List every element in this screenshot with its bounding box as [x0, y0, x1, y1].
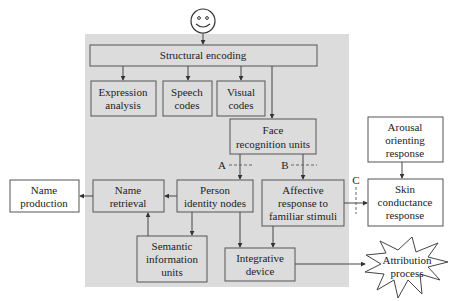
svg-text:Expression: Expression [99, 86, 148, 98]
svg-text:Visual: Visual [227, 86, 255, 98]
svg-text:Semantic: Semantic [152, 240, 193, 252]
node-person-identity-nodes: Person identity nodes [177, 180, 253, 212]
svg-text:familiar stimuli: familiar stimuli [269, 210, 337, 222]
svg-text:conductance: conductance [378, 196, 433, 208]
node-name-retrieval: Name retrieval [93, 180, 164, 212]
svg-text:Structural encoding: Structural encoding [160, 49, 247, 61]
pathway-label-a: A [218, 159, 226, 171]
svg-text:identity nodes: identity nodes [184, 197, 246, 209]
svg-text:Speech: Speech [171, 86, 203, 98]
svg-text:information: information [146, 253, 198, 265]
node-attribution-process: Attribution process [365, 237, 448, 298]
node-integrative-device: Integrative device [225, 248, 295, 281]
node-arousal-orienting-response: Arousal orienting response [368, 117, 443, 162]
node-structural-encoding: Structural encoding [90, 45, 317, 66]
svg-text:Skin: Skin [395, 183, 416, 195]
svg-text:production: production [20, 197, 68, 209]
svg-text:Person: Person [200, 184, 230, 196]
node-expression-analysis: Expression analysis [91, 81, 156, 116]
svg-text:recognition units: recognition units [236, 138, 310, 150]
svg-text:Arousal: Arousal [388, 121, 423, 133]
node-name-production: Name production [10, 180, 79, 212]
core-system-panel [85, 34, 349, 287]
node-skin-conductance-response: Skin conductance response [368, 179, 443, 226]
face-recognition-model-diagram: Structural encoding Expression analysis … [0, 0, 451, 301]
node-affective-response: Affective response to familiar stimuli [262, 180, 344, 226]
svg-text:Affective: Affective [282, 184, 323, 196]
node-visual-codes: Visual codes [217, 81, 265, 116]
svg-text:response to: response to [278, 197, 328, 209]
svg-text:Integrative: Integrative [236, 252, 284, 264]
svg-text:response: response [386, 147, 425, 159]
svg-text:analysis: analysis [105, 99, 140, 111]
svg-text:Attribution: Attribution [383, 254, 432, 266]
svg-text:orienting: orienting [385, 134, 425, 146]
svg-text:Name: Name [31, 184, 57, 196]
pathway-label-b: B [281, 159, 288, 171]
pathway-label-c: C [352, 174, 359, 186]
svg-text:Name: Name [115, 184, 141, 196]
svg-text:Face: Face [263, 124, 284, 136]
svg-text:codes: codes [174, 99, 199, 111]
smiley-face-icon [191, 9, 215, 33]
svg-text:units: units [161, 266, 182, 278]
svg-text:device: device [246, 265, 275, 277]
svg-text:response: response [386, 209, 425, 221]
node-face-recognition-units: Face recognition units [230, 119, 316, 154]
node-speech-codes: Speech codes [163, 81, 212, 116]
svg-text:codes: codes [228, 99, 253, 111]
svg-text:process: process [391, 267, 424, 279]
svg-text:retrieval: retrieval [110, 197, 147, 209]
node-semantic-information-units: Semantic information units [137, 236, 207, 282]
